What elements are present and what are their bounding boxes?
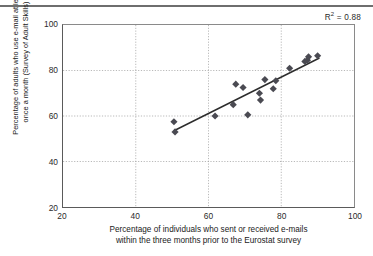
data-point-marker	[256, 90, 263, 97]
data-point-marker	[305, 53, 312, 60]
x-tick-label: 100	[340, 212, 370, 220]
data-point-marker	[239, 84, 246, 91]
data-point-marker	[304, 57, 311, 64]
data-point-marker	[170, 118, 177, 125]
trendline	[174, 58, 319, 131]
x-axis-tick-labels: 20406080100	[62, 212, 355, 224]
x-tick-label: 40	[120, 212, 150, 220]
data-point-marker	[232, 81, 239, 88]
data-point-marker	[314, 52, 321, 59]
data-point-marker	[244, 111, 251, 118]
data-point-marker	[261, 76, 268, 83]
x-axis-title-line-1: Percentage of individuals who sent or re…	[62, 225, 355, 236]
x-axis-title-line-2: within the three months prior to the Eur…	[62, 236, 355, 247]
r-squared-annotation: R2 = 0.88	[325, 11, 361, 22]
y-tick-label: 20	[32, 204, 58, 212]
data-point-marker	[230, 101, 237, 108]
data-point-marker	[171, 128, 178, 135]
data-point-marker	[301, 58, 308, 65]
r-squared-value: = 0.88	[334, 13, 361, 22]
y-axis-title-line-2: once a month (Survey of Adult Skills)	[21, 0, 31, 152]
x-tick-label: 80	[267, 212, 297, 220]
data-point-marker	[257, 97, 264, 104]
y-axis-title-line-1: Percentage of adults who use e-mail at l…	[11, 0, 21, 152]
top-divider-rule	[0, 5, 373, 7]
data-point-marker	[272, 77, 279, 84]
x-tick-label: 20	[47, 212, 77, 220]
y-tick-label: 40	[32, 158, 58, 166]
x-axis-title: Percentage of individuals who sent or re…	[62, 225, 355, 246]
plot-area	[62, 24, 355, 208]
x-tick-label: 60	[194, 212, 224, 220]
data-point-marker	[270, 85, 277, 92]
gridlines-and-series	[63, 25, 354, 207]
scatter-chart-figure: R2 = 0.88 20406080100 20406080100 Percen…	[0, 0, 373, 256]
y-axis-title: Percentage of adults who use e-mail at l…	[11, 0, 39, 152]
data-point-marker	[286, 65, 293, 72]
data-point-marker	[211, 112, 218, 119]
